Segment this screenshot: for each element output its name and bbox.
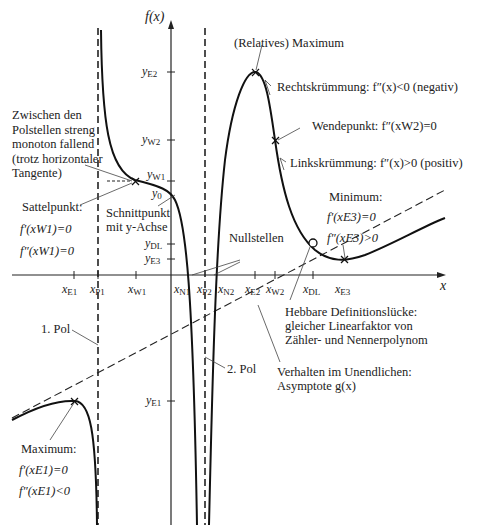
tick-xE2: xE2: [245, 282, 260, 297]
tick-xW2: xW2: [266, 282, 284, 297]
tick-yDL: yDL: [145, 236, 162, 251]
annotation-hebbare-luecke: Hebbare Definitionslücke: gleicher Linea…: [285, 305, 428, 347]
annotation-rel-maximum: (Relatives) Maximum: [234, 36, 344, 50]
tick-xP1: xP1: [90, 282, 105, 297]
x-axis-label: x: [440, 279, 446, 293]
tick-yE1: yE1: [146, 393, 161, 408]
annotation-sattelpunkt-f2: f″(xW1)=0: [20, 244, 74, 258]
annotation-linkskruemmung: Linkskrümmung: f″(x)>0 (positiv): [290, 156, 463, 170]
hebbare-luecke-marker: [309, 239, 317, 247]
annotation-minimum-title: Minimum:: [329, 190, 382, 204]
tick-y0: y0: [152, 186, 162, 201]
tick-yW1: yW1: [147, 167, 165, 182]
annotation-minimum-f1: f′(xE3)=0: [327, 210, 376, 224]
annotation-minimum-f2: f″(xE3)>0: [327, 231, 378, 245]
tick-yE2: yE2: [142, 64, 157, 79]
annotation-polstellen-monoton: Zwischen den Polstellen streng monoton f…: [12, 108, 103, 181]
annotation-maximum-f2: f″(xE1)<0: [19, 484, 70, 498]
annotation-pol1: 1. Pol: [41, 322, 70, 336]
annotation-rechtskruemmung: Rechtskrümmung: f″(x)<0 (negativ): [277, 80, 458, 94]
curve-middle-branch: [101, 30, 197, 525]
y-axis-label: f(x): [145, 10, 164, 24]
tick-xW1: xW1: [128, 282, 146, 297]
annotation-sattelpunkt-title: Sattelpunkt:: [22, 200, 82, 214]
tick-yE3: yE3: [145, 251, 160, 266]
tick-xP2: xP2: [197, 282, 212, 297]
annotation-wendepunkt: Wendepunkt: f″(xW2)=0: [312, 119, 437, 133]
curve-right-branch: [209, 72, 445, 525]
annotation-maximum-title: Maximum:: [21, 442, 77, 456]
y-axis-arrow: [168, 20, 174, 29]
tick-xN2: xN2: [218, 282, 234, 297]
annotation-unendlich: Verhalten im Unendlichen: Asymptote g(x): [277, 365, 412, 393]
annotation-sattelpunkt-f1: f′(xW1)=0: [20, 222, 71, 236]
tick-xE1: xE1: [62, 282, 77, 297]
tick-xN1: xN1: [174, 282, 190, 297]
tick-yW2: yW2: [142, 132, 160, 147]
annotation-pol2: 2. Pol: [227, 362, 256, 376]
annotation-nullstellen: Nullstellen: [229, 231, 284, 245]
tick-xE3: xE3: [335, 282, 350, 297]
tick-xDL: xDL: [303, 282, 320, 297]
annotation-maximum-f1: f′(xE1)=0: [19, 463, 68, 477]
annotation-schnittpunkt: Schnittpunkt mit y-Achse: [106, 206, 170, 234]
